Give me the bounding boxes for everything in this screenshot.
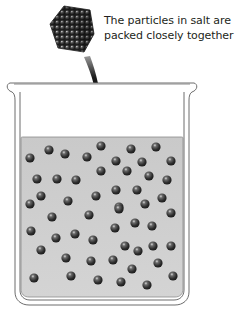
- particle: [133, 246, 142, 255]
- particle: [47, 212, 56, 221]
- particle: [122, 166, 131, 175]
- particle: [151, 142, 160, 151]
- particle: [36, 245, 45, 254]
- particle: [148, 241, 157, 250]
- particle: [114, 204, 123, 213]
- particle: [116, 277, 125, 286]
- particle: [127, 264, 136, 273]
- particle: [153, 258, 162, 267]
- particle: [111, 156, 120, 165]
- particle: [60, 149, 69, 158]
- particle: [82, 152, 91, 161]
- particle: [130, 218, 139, 227]
- particle: [126, 144, 135, 153]
- particle: [144, 171, 153, 180]
- particle: [137, 157, 146, 166]
- particle: [93, 275, 102, 284]
- particle: [51, 233, 60, 242]
- particle: [26, 226, 35, 235]
- caption: The particles in salt are packed closely…: [104, 13, 236, 43]
- particle: [96, 166, 105, 175]
- particle: [88, 235, 97, 244]
- particle: [84, 210, 93, 219]
- particle: [111, 185, 120, 194]
- particle: [86, 256, 95, 265]
- particle: [70, 229, 79, 238]
- particle: [140, 199, 149, 208]
- particle: [66, 271, 75, 280]
- salt-dissolving-diagram: [0, 0, 236, 314]
- particle: [166, 208, 175, 217]
- caption-line-2: packed closely together: [104, 28, 236, 43]
- particle: [120, 241, 129, 250]
- particle: [142, 280, 151, 289]
- particle: [147, 221, 156, 230]
- particle: [91, 191, 100, 200]
- particle: [71, 175, 80, 184]
- particle: [63, 196, 72, 205]
- particle: [25, 199, 34, 208]
- particle: [32, 174, 41, 183]
- particle: [168, 271, 177, 280]
- particle: [96, 141, 105, 150]
- liquid: [21, 137, 183, 297]
- particle: [108, 255, 117, 264]
- particle: [29, 273, 38, 282]
- salt-crystal: [50, 6, 94, 52]
- particle: [166, 241, 175, 250]
- particle: [61, 253, 70, 262]
- particle: [162, 175, 171, 184]
- caption-line-1: The particles in salt are: [104, 13, 236, 28]
- particle: [110, 223, 119, 232]
- particle: [166, 156, 175, 165]
- particle: [52, 174, 61, 183]
- particle: [25, 153, 34, 162]
- particle: [36, 191, 45, 200]
- particle: [157, 193, 166, 202]
- particle: [132, 185, 141, 194]
- particle: [44, 145, 53, 154]
- beaker: [7, 83, 197, 305]
